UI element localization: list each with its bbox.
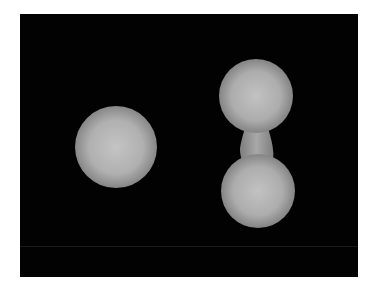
dumbbell [219,59,295,228]
scene-shapes [0,0,375,296]
sphere [75,106,157,188]
